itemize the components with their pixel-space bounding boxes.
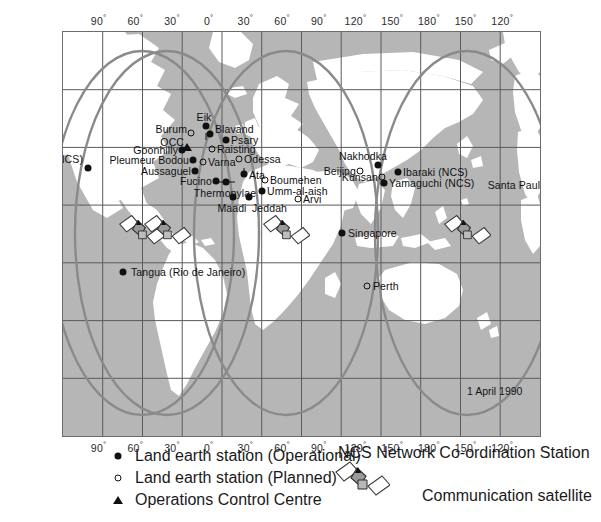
station-label: Blavand xyxy=(215,124,254,135)
station-marker[interactable] xyxy=(200,159,207,166)
filled-circle-icon xyxy=(192,168,199,175)
station-label: Perth xyxy=(373,281,399,292)
station-label: Pleumeur Bodou xyxy=(109,155,189,166)
station-marker[interactable] xyxy=(203,123,210,130)
axis-tick-label: 90° xyxy=(311,13,327,27)
station-label: Odessa xyxy=(244,154,281,165)
station-marker[interactable] xyxy=(192,168,199,175)
filled-circle-icon xyxy=(85,165,92,172)
station-marker[interactable] xyxy=(375,162,382,169)
communication-satellite-icon xyxy=(262,212,310,254)
station-marker[interactable] xyxy=(207,131,214,138)
filled-circle-icon xyxy=(375,162,382,169)
station-label: Tangua (Rio de Janeiro) xyxy=(131,267,245,278)
filled-circle-icon xyxy=(381,180,388,187)
axis-tick-label: 60° xyxy=(127,13,143,27)
station-label: Nakhodka xyxy=(339,151,387,162)
axis-tick-label: 90° xyxy=(91,13,107,27)
filled-circle-icon xyxy=(203,123,210,130)
legend: Land earth station (Operational) Land ea… xyxy=(0,440,601,522)
filled-circle-icon xyxy=(241,171,248,178)
axis-tick-label: 150° xyxy=(455,13,477,27)
legend-label-satellite: Communication satellite xyxy=(422,487,592,505)
open-circle-icon xyxy=(200,159,207,166)
axis-tick-label: 120° xyxy=(491,13,513,27)
station-marker[interactable] xyxy=(209,146,216,153)
open-circle-icon xyxy=(295,196,302,203)
open-circle-icon xyxy=(262,177,269,184)
filled-circle-icon xyxy=(339,230,346,237)
open-circle-icon xyxy=(364,283,371,290)
map-figure: 90°60°30°0°30°60°90°120°150°180°150°120° xyxy=(0,0,601,522)
station-marker[interactable] xyxy=(246,194,253,201)
filled-circle-icon xyxy=(259,188,266,195)
station-marker[interactable] xyxy=(179,147,186,154)
station-label: Eik xyxy=(197,112,212,123)
station-marker[interactable] xyxy=(85,165,92,172)
filled-circle-icon xyxy=(395,169,402,176)
filled-circle-icon xyxy=(179,147,186,154)
station-marker[interactable] xyxy=(259,188,266,195)
world-map: Southbury (NCS)Santa PaulaTangua (Rio de… xyxy=(62,31,541,437)
station-label: Ibaraki (NCS) xyxy=(403,167,468,178)
open-circle-icon xyxy=(188,130,195,137)
legend-filled-circle-icon xyxy=(115,453,122,460)
station-marker[interactable] xyxy=(213,178,220,185)
axis-tick-label: 150° xyxy=(381,13,403,27)
communication-satellite-icon xyxy=(443,212,491,254)
station-label: Kunsan xyxy=(342,172,378,183)
date-stamp: 1 April 1990 xyxy=(467,385,522,397)
filled-circle-icon xyxy=(213,178,220,185)
axis-tick-label: 60° xyxy=(274,13,290,27)
filled-circle-icon xyxy=(246,194,253,201)
station-marker[interactable] xyxy=(223,179,230,186)
station-label: Singapore xyxy=(348,228,397,239)
filled-circle-icon xyxy=(207,131,214,138)
station-label: Yamaguchi (NCS) xyxy=(389,178,474,189)
station-label: Arvi xyxy=(303,194,321,205)
station-label: Burum xyxy=(156,124,187,135)
station-marker[interactable] xyxy=(230,194,237,201)
axis-tick-label: 30° xyxy=(164,13,180,27)
filled-circle-icon xyxy=(120,269,127,276)
station-marker[interactable] xyxy=(188,130,195,137)
station-marker[interactable] xyxy=(339,230,346,237)
station-label: Fucino xyxy=(180,176,212,187)
station-marker[interactable] xyxy=(364,283,371,290)
station-marker[interactable] xyxy=(262,177,269,184)
station-marker[interactable] xyxy=(381,180,388,187)
station-label: Santa Paula xyxy=(488,180,541,191)
station-marker[interactable] xyxy=(236,156,243,163)
legend-open-circle-icon xyxy=(115,475,122,482)
legend-triangle-icon xyxy=(113,496,123,504)
filled-circle-icon xyxy=(190,157,197,164)
open-circle-icon xyxy=(209,146,216,153)
station-marker[interactable] xyxy=(190,157,197,164)
axis-tick-label: 180° xyxy=(418,13,440,27)
station-label: Varna xyxy=(208,157,236,168)
open-circle-icon xyxy=(236,156,243,163)
legend-satellite-icon xyxy=(334,458,390,506)
axis-tick-label: 120° xyxy=(345,13,367,27)
station-label: Southbury (NCS) xyxy=(62,154,83,165)
station-label: Maadi xyxy=(217,203,246,214)
station-label: Boumehen xyxy=(270,175,322,186)
axis-tick-label: 30° xyxy=(238,13,254,27)
legend-label-operational: Land earth station (Operational) xyxy=(135,447,361,465)
communication-satellite-icon xyxy=(143,212,191,254)
legend-label-occ: Operations Control Centre xyxy=(135,491,322,509)
filled-circle-icon xyxy=(230,194,237,201)
axis-tick-label: 0° xyxy=(204,13,214,27)
station-marker[interactable] xyxy=(120,269,127,276)
station-marker[interactable] xyxy=(395,169,402,176)
filled-circle-icon xyxy=(223,179,230,186)
legend-label-planned: Land earth station (Planned) xyxy=(135,469,337,487)
station-marker[interactable] xyxy=(295,196,302,203)
station-marker[interactable] xyxy=(241,171,248,178)
